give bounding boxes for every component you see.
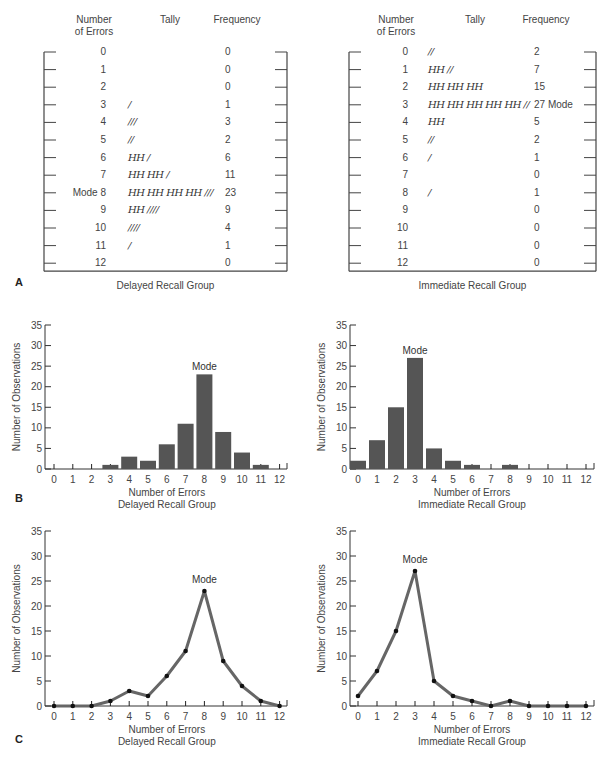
header-frequency: Frequency [516, 14, 576, 26]
header-number-of-errors: Number of Errors [366, 14, 426, 38]
y-tick-label: 5 [36, 443, 42, 454]
x-tick-label: 6 [164, 474, 170, 485]
cell-number-of-errors: 8 [356, 187, 408, 199]
y-tick-label: 30 [31, 551, 43, 562]
x-tick-label: 10 [236, 474, 248, 485]
bar-chart-immediate-recall: 051015202530350123456789101112ModeNumber… [306, 310, 613, 510]
data-point-marker [127, 689, 132, 694]
cell-tally: HH [428, 116, 444, 127]
y-tick-label: 15 [336, 402, 348, 413]
x-tick-label: 6 [469, 474, 475, 485]
cell-number-of-errors: 6 [356, 152, 408, 164]
cell-frequency: 1 [534, 152, 540, 164]
cell-tally: / [128, 240, 131, 251]
x-tick-label: 3 [108, 711, 114, 722]
x-tick-label: 6 [164, 711, 170, 722]
x-tick-label: 0 [355, 711, 361, 722]
x-tick-label: 12 [274, 711, 286, 722]
bar [502, 465, 518, 469]
cell-number-of-errors: 10 [54, 222, 106, 234]
y-tick-label: 0 [36, 701, 42, 712]
x-tick-label: 8 [202, 474, 208, 485]
cell-number-of-errors: 1 [356, 64, 408, 76]
y-tick-label: 20 [336, 381, 348, 392]
data-point-marker [546, 704, 551, 709]
y-axis-label: Number of Observations [316, 564, 327, 672]
x-tick-label: 0 [355, 474, 361, 485]
data-point-marker [584, 704, 589, 709]
x-tick-label: 0 [51, 474, 57, 485]
cell-frequency: 6 [225, 152, 231, 164]
cell-frequency: 9 [225, 204, 231, 216]
cell-number-of-errors: 7 [54, 169, 106, 181]
data-point-marker [240, 684, 245, 689]
y-axis-label: Number of Observations [316, 343, 327, 451]
x-tick-label: 5 [145, 711, 151, 722]
mode-annotation: Mode [192, 361, 217, 372]
mode-annotation: Mode [402, 554, 427, 565]
cell-tally: // [428, 46, 434, 57]
data-point-marker [183, 649, 188, 654]
cell-number-of-errors: 4 [54, 116, 106, 128]
x-tick-label: 4 [431, 474, 437, 485]
cell-tally: HH //// [128, 204, 159, 215]
cell-number-of-errors: 7 [356, 169, 408, 181]
cell-tally: / [428, 187, 431, 198]
data-point-marker [489, 704, 494, 709]
bar [426, 448, 442, 469]
bar-chart-delayed-recall: 051015202530350123456789101112ModeNumber… [0, 310, 306, 510]
cell-number-of-errors: 9 [356, 204, 408, 216]
y-axis-label: Number of Observations [11, 564, 22, 672]
x-tick-label: 8 [507, 711, 513, 722]
y-tick-label: 35 [31, 526, 43, 537]
y-tick-label: 20 [336, 601, 348, 612]
mode-annotation: Mode [192, 574, 217, 585]
cell-number-of-errors: 3 [356, 99, 408, 111]
x-tick-label: 10 [236, 711, 248, 722]
header-frequency: Frequency [207, 14, 267, 26]
data-point-marker [451, 694, 456, 699]
table-caption: Immediate Recall Group [349, 280, 596, 291]
cell-frequency: 27 Mode [534, 99, 573, 111]
chart-subtitle: Immediate Recall Group [418, 736, 526, 747]
cell-frequency: 5 [534, 116, 540, 128]
cell-frequency: 3 [225, 116, 231, 128]
cell-number-of-errors: Mode 8 [54, 187, 106, 199]
data-point-marker [394, 629, 399, 634]
cell-frequency: 1 [225, 240, 231, 252]
cell-frequency: 1 [534, 187, 540, 199]
x-tick-label: 5 [450, 711, 456, 722]
y-tick-label: 35 [336, 320, 348, 331]
data-point-marker [565, 704, 570, 709]
cell-number-of-errors: 3 [54, 99, 106, 111]
x-tick-label: 3 [108, 474, 114, 485]
data-point-marker [89, 704, 94, 709]
x-tick-label: 2 [393, 474, 399, 485]
x-tick-label: 7 [488, 711, 494, 722]
cell-number-of-errors: 5 [54, 134, 106, 146]
x-tick-label: 7 [488, 474, 494, 485]
bar [388, 407, 404, 469]
bar [159, 444, 175, 469]
cell-frequency: 11 [225, 169, 235, 181]
chart-axes: 051015202530350123456789101112 [336, 526, 594, 723]
data-point-marker [508, 699, 513, 704]
cell-number-of-errors: 1 [54, 64, 106, 76]
bar [178, 424, 194, 469]
x-tick-label: 10 [542, 711, 554, 722]
cell-tally: // [128, 134, 134, 145]
cell-number-of-errors: 2 [54, 81, 106, 93]
x-axis-label: Number of Errors [434, 487, 511, 498]
x-axis-label: Number of Errors [434, 724, 511, 735]
y-tick-label: 20 [31, 381, 43, 392]
data-point-marker [71, 704, 76, 709]
cell-tally: / [428, 152, 431, 163]
x-tick-label: 12 [580, 474, 592, 485]
cell-number-of-errors: 9 [54, 204, 106, 216]
bar [369, 440, 385, 469]
y-tick-label: 35 [336, 526, 348, 537]
x-tick-label: 8 [202, 711, 208, 722]
line-chart-delayed-recall: 051015202530350123456789101112ModeNumber… [0, 520, 306, 750]
data-point-marker [432, 679, 437, 684]
cell-number-of-errors: 6 [54, 152, 106, 164]
